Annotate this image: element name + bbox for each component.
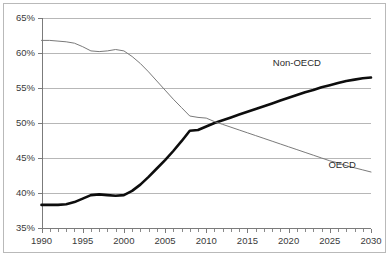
y-tick-label-40: 40% [16,187,36,198]
x-tick-label-2015: 2015 [237,235,258,246]
x-tick-label-1990: 1990 [31,235,52,246]
chart-figure: 65%60%55%50%45%40%35% 199019952000200520… [0,0,392,263]
line-chart: 65%60%55%50%45%40%35% 199019952000200520… [0,0,392,263]
y-tick-label-55: 55% [16,82,36,93]
y-tick-label-50: 50% [16,117,36,128]
x-tick-label-2000: 2000 [113,235,134,246]
y-tick-label-60: 60% [16,47,36,58]
y-tick-label-45: 45% [16,152,36,163]
y-axis-labels: 65%60%55%50%45%40%35% [16,12,36,233]
y-tick-label-65: 65% [16,12,36,23]
series-line-non-oecd [42,78,372,205]
y-tick-label-35: 35% [16,222,36,233]
x-axis-labels: 199019952000200520102015202020252030 [31,235,382,246]
gridlines-group [42,19,372,194]
series-annotation-oecd: OECD [328,159,356,170]
x-tick-label-2025: 2025 [319,235,340,246]
x-tick-label-2005: 2005 [154,235,175,246]
series-line-oecd [42,40,372,172]
x-tick-label-2010: 2010 [196,235,217,246]
series-annotations: Non-OECDOECD [273,57,356,170]
x-tick-label-2020: 2020 [278,235,299,246]
series-group [42,40,372,205]
x-tick-label-1995: 1995 [72,235,93,246]
x-tick-label-2030: 2030 [360,235,381,246]
series-annotation-non-oecd: Non-OECD [273,57,321,68]
